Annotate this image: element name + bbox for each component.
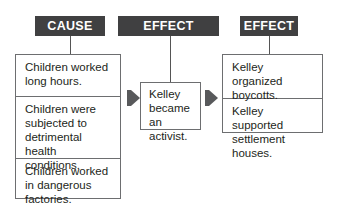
effect-cause-connector (170, 36, 171, 82)
middle-item: Kelley became an activist. (141, 83, 200, 147)
effect-box: Kelley organized boycotts. Kelley suppor… (222, 54, 323, 133)
effect-header: EFFECT (240, 16, 298, 36)
effect-item: Kelley supported settlement houses. (223, 98, 322, 132)
cause-item: Children worked in dangerous factories. (16, 158, 120, 198)
cause-connector (70, 36, 71, 54)
effect-connector (269, 36, 270, 54)
arrow-right-icon (131, 90, 140, 106)
cause-box: Children worked long hours. Children wer… (15, 54, 121, 199)
arrow-right-icon (209, 90, 218, 106)
cause-header: CAUSE (35, 16, 105, 36)
cause-item: Children were subjected to detrimental h… (16, 96, 120, 158)
cause-item: Children worked long hours. (16, 55, 120, 96)
middle-box: Kelley became an activist. (140, 82, 201, 130)
effect-item: Kelley organized boycotts. (223, 55, 322, 98)
effect-cause-header: EFFECT (CAUSE) (118, 16, 219, 36)
